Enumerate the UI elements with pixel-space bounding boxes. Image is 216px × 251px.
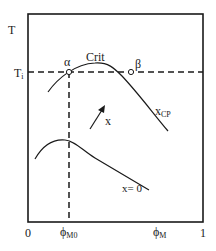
alpha-label: α xyxy=(64,55,71,69)
plot-frame xyxy=(28,14,203,222)
phase-diagram: T Ti α β Crit x xCP x= 0 0 ϕM0 ϕM 1 xyxy=(0,0,216,251)
increase-x-arrow-shaft xyxy=(90,110,102,129)
arrow-x-label: x xyxy=(105,114,111,128)
y-axis-label: T xyxy=(8,23,16,37)
beta-label: β xyxy=(135,57,141,71)
alpha-point xyxy=(66,69,71,74)
ti-label: Ti xyxy=(14,66,24,81)
phi-m0-label: ϕM0 xyxy=(60,225,77,240)
crit-label: Crit xyxy=(86,50,105,64)
beta-point xyxy=(128,69,133,74)
phi-m-axis-label: ϕM xyxy=(153,225,166,240)
x-origin-label: 0 xyxy=(25,226,31,240)
x0-label: x= 0 xyxy=(122,182,142,194)
xcp-label: xCP xyxy=(155,104,171,119)
x-end-label: 1 xyxy=(200,226,206,240)
